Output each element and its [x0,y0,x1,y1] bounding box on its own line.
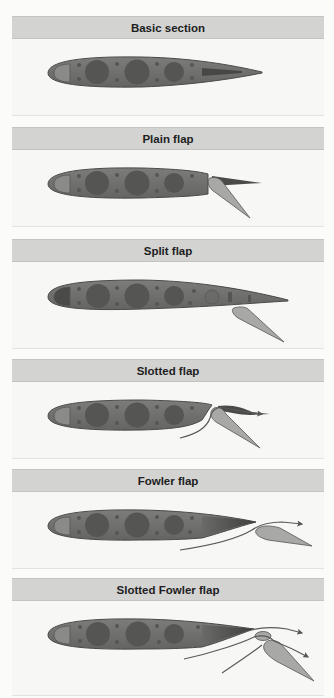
airfoil-body [48,400,212,430]
panel-split-flap: Split flap [12,239,324,349]
panel-title: Plain flap [12,127,324,150]
panel-title: Slotted Fowler flap [12,578,324,601]
slotted-fowler-flap-figure [12,601,324,695]
panel-title: Split flap [12,239,324,262]
split-flap-figure [12,262,324,348]
airfoil-body [48,619,254,649]
panel-title: Slotted flap [12,359,324,382]
panel-slotted-flap: Slotted flap [12,359,324,459]
fowler-flap [264,640,314,681]
panel-slotted-fowler-flap: Slotted Fowler flap [12,578,324,696]
airfoil-body [48,280,288,310]
flap-types-diagram: Basic section Plain flap [0,0,334,698]
airfoil-body [48,57,262,87]
airfoil-body [48,168,208,198]
panel-plain-flap: Plain flap [12,127,324,227]
panel-title: Basic section [12,16,324,39]
split-flap [232,307,284,342]
slot-airflow-line-2 [222,645,262,673]
plain-flap-figure [12,150,324,226]
panel-title: Fowler flap [12,469,324,492]
fowler-flap [256,526,312,546]
panel-fowler-flap: Fowler flap [12,469,324,569]
slotted-flap-figure [12,382,324,458]
panel-basic-section: Basic section [12,16,324,116]
airfoil-body [48,510,256,540]
fowler-flap-figure [12,492,324,568]
basic-airfoil-figure [12,39,324,115]
